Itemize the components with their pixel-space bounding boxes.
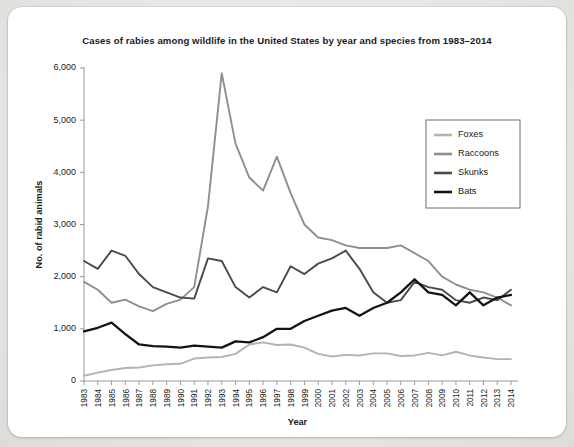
screenshot-root: Cases of rabies among wildlife in the Un… [0,0,574,447]
x-tick-label: 1997 [273,389,282,408]
series-line-foxes [84,342,511,375]
x-tick-label: 1987 [135,389,144,408]
legend-label-raccoons: Raccoons [458,148,499,158]
x-tick-label: 1999 [301,389,310,408]
x-tick-label: 1990 [177,389,186,408]
x-tick-label: 2006 [397,389,406,408]
y-tick-label: 3,000 [53,219,76,229]
x-tick-label: 2011 [466,389,475,407]
x-axis: 1983198419851986198719881989199019911992… [80,381,518,407]
y-tick-label: 5,000 [53,115,76,125]
x-tick-label: 1998 [287,389,296,408]
x-tick-label: 1984 [94,389,103,408]
x-tick-label: 1992 [204,389,213,408]
series-line-skunks [84,251,511,303]
x-tick-label: 2005 [383,389,392,408]
legend-label-skunks: Skunks [458,167,489,177]
x-tick-label: 2007 [411,389,420,408]
series-lines [84,73,511,376]
x-tick-label: 1983 [80,389,89,408]
chart-card: Cases of rabies among wildlife in the Un… [8,7,566,437]
series-line-bats [84,279,511,347]
x-tick-label: 1995 [245,389,254,408]
x-tick-label: 2008 [425,389,434,408]
x-tick-label: 2004 [369,389,378,408]
x-tick-label: 1989 [163,389,172,408]
legend-label-foxes: Foxes [458,129,483,139]
y-axis-title: No. of rabid animals [34,181,44,269]
legend-label-bats: Bats [458,186,477,196]
x-tick-label: 2014 [507,389,516,408]
x-axis-title: Year [288,417,308,427]
x-tick-label: 2012 [480,389,489,408]
chart-legend: FoxesRaccoonsSkunksBats [426,120,520,208]
x-tick-label: 1988 [149,389,158,408]
y-axis: 01,0002,0003,0004,0005,0006,000 [53,62,84,385]
x-tick-label: 1985 [108,389,117,408]
x-tick-label: 2013 [493,389,502,408]
x-tick-label: 2002 [342,389,351,408]
x-tick-label: 2009 [438,389,447,408]
x-tick-label: 1996 [259,389,268,408]
y-tick-label: 4,000 [53,167,76,177]
line-chart: 01,0002,0003,0004,0005,0006,000 19831984… [8,7,566,437]
x-tick-label: 2001 [328,389,337,408]
x-tick-label: 2000 [314,389,323,408]
y-tick-label: 6,000 [53,62,76,72]
y-tick-label: 0 [71,375,76,385]
x-tick-label: 2010 [452,389,461,408]
x-tick-label: 1994 [232,389,241,408]
x-tick-label: 1991 [190,389,199,408]
x-tick-label: 2003 [356,389,365,408]
y-tick-label: 2,000 [53,271,76,281]
x-tick-label: 1986 [122,389,131,408]
x-tick-label: 1993 [218,389,227,408]
y-tick-label: 1,000 [53,323,76,333]
